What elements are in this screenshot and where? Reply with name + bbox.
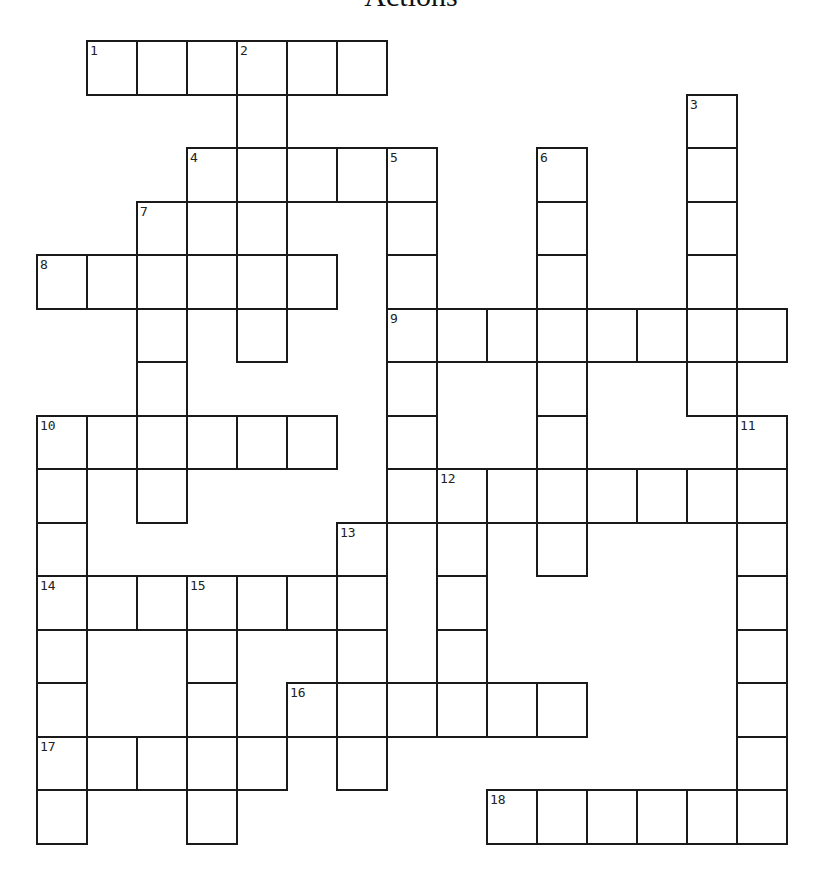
crossword-cell[interactable] bbox=[286, 147, 338, 203]
crossword-cell[interactable] bbox=[186, 682, 238, 738]
crossword-cell[interactable] bbox=[536, 522, 588, 577]
crossword-cell[interactable] bbox=[186, 736, 238, 791]
crossword-cell[interactable]: 5 bbox=[386, 147, 438, 203]
crossword-cell[interactable] bbox=[236, 415, 288, 470]
crossword-cell[interactable] bbox=[586, 789, 638, 845]
crossword-cell[interactable] bbox=[286, 40, 338, 96]
crossword-cell[interactable] bbox=[636, 468, 688, 524]
crossword-cell[interactable] bbox=[536, 682, 588, 738]
crossword-cell[interactable] bbox=[236, 575, 288, 631]
crossword-cell[interactable] bbox=[486, 308, 538, 363]
crossword-cell[interactable]: 8 bbox=[36, 254, 88, 310]
crossword-cell[interactable]: 1 bbox=[86, 40, 138, 96]
crossword-cell[interactable] bbox=[186, 415, 238, 470]
crossword-cell[interactable] bbox=[536, 201, 588, 256]
crossword-cell[interactable] bbox=[136, 254, 188, 310]
crossword-cell[interactable] bbox=[736, 308, 788, 363]
crossword-cell[interactable] bbox=[136, 308, 188, 363]
crossword-cell[interactable] bbox=[736, 789, 788, 845]
crossword-cell[interactable] bbox=[486, 682, 538, 738]
crossword-cell[interactable] bbox=[736, 736, 788, 791]
crossword-cell[interactable] bbox=[436, 308, 488, 363]
crossword-cell[interactable] bbox=[186, 40, 238, 96]
crossword-cell[interactable] bbox=[686, 308, 738, 363]
crossword-cell[interactable] bbox=[536, 415, 588, 470]
crossword-cell[interactable]: 9 bbox=[386, 308, 438, 363]
crossword-cell[interactable] bbox=[436, 522, 488, 577]
crossword-cell[interactable] bbox=[236, 254, 288, 310]
crossword-cell[interactable]: 18 bbox=[486, 789, 538, 845]
crossword-cell[interactable] bbox=[536, 308, 588, 363]
crossword-cell[interactable] bbox=[386, 361, 438, 417]
crossword-cell[interactable] bbox=[736, 682, 788, 738]
crossword-cell[interactable] bbox=[386, 201, 438, 256]
crossword-cell[interactable] bbox=[136, 361, 188, 417]
crossword-cell[interactable]: 4 bbox=[186, 147, 238, 203]
crossword-cell[interactable] bbox=[136, 468, 188, 524]
crossword-cell[interactable] bbox=[86, 415, 138, 470]
crossword-cell[interactable]: 7 bbox=[136, 201, 188, 256]
crossword-cell[interactable]: 15 bbox=[186, 575, 238, 631]
crossword-cell[interactable] bbox=[636, 789, 688, 845]
crossword-cell[interactable] bbox=[136, 415, 188, 470]
crossword-cell[interactable] bbox=[686, 201, 738, 256]
crossword-cell[interactable] bbox=[686, 468, 738, 524]
crossword-cell[interactable] bbox=[436, 629, 488, 684]
crossword-cell[interactable]: 3 bbox=[686, 94, 738, 149]
crossword-cell[interactable]: 11 bbox=[736, 415, 788, 470]
crossword-cell[interactable] bbox=[736, 629, 788, 684]
crossword-cell[interactable] bbox=[686, 361, 738, 417]
crossword-cell[interactable]: 13 bbox=[336, 522, 388, 577]
crossword-cell[interactable]: 10 bbox=[36, 415, 88, 470]
crossword-cell[interactable] bbox=[36, 468, 88, 524]
crossword-cell[interactable] bbox=[186, 629, 238, 684]
crossword-cell[interactable] bbox=[736, 522, 788, 577]
crossword-cell[interactable] bbox=[536, 468, 588, 524]
crossword-cell[interactable] bbox=[686, 254, 738, 310]
crossword-cell[interactable]: 6 bbox=[536, 147, 588, 203]
crossword-cell[interactable] bbox=[336, 682, 388, 738]
crossword-cell[interactable] bbox=[386, 415, 438, 470]
crossword-cell[interactable] bbox=[286, 575, 338, 631]
crossword-cell[interactable] bbox=[536, 789, 588, 845]
crossword-cell[interactable] bbox=[136, 575, 188, 631]
crossword-cell[interactable] bbox=[436, 575, 488, 631]
crossword-cell[interactable] bbox=[236, 308, 288, 363]
crossword-cell[interactable] bbox=[86, 575, 138, 631]
crossword-cell[interactable] bbox=[586, 308, 638, 363]
crossword-cell[interactable]: 14 bbox=[36, 575, 88, 631]
crossword-cell[interactable] bbox=[36, 629, 88, 684]
crossword-cell[interactable] bbox=[186, 789, 238, 845]
crossword-cell[interactable] bbox=[236, 736, 288, 791]
crossword-cell[interactable] bbox=[336, 40, 388, 96]
crossword-cell[interactable] bbox=[36, 789, 88, 845]
crossword-cell[interactable] bbox=[336, 147, 388, 203]
crossword-cell[interactable] bbox=[236, 94, 288, 149]
crossword-cell[interactable] bbox=[186, 254, 238, 310]
crossword-cell[interactable] bbox=[136, 40, 188, 96]
crossword-cell[interactable] bbox=[486, 468, 538, 524]
crossword-cell[interactable] bbox=[636, 308, 688, 363]
crossword-cell[interactable] bbox=[336, 629, 388, 684]
crossword-cell[interactable] bbox=[686, 789, 738, 845]
crossword-cell[interactable] bbox=[86, 736, 138, 791]
crossword-cell[interactable] bbox=[386, 468, 438, 524]
crossword-cell[interactable] bbox=[386, 682, 438, 738]
crossword-cell[interactable] bbox=[36, 522, 88, 577]
crossword-cell[interactable] bbox=[286, 254, 338, 310]
crossword-cell[interactable] bbox=[336, 575, 388, 631]
crossword-cell[interactable]: 16 bbox=[286, 682, 338, 738]
crossword-cell[interactable] bbox=[586, 468, 638, 524]
crossword-cell[interactable] bbox=[736, 575, 788, 631]
crossword-cell[interactable] bbox=[286, 415, 338, 470]
crossword-cell[interactable] bbox=[36, 682, 88, 738]
crossword-cell[interactable] bbox=[386, 254, 438, 310]
crossword-cell[interactable] bbox=[536, 254, 588, 310]
crossword-cell[interactable]: 17 bbox=[36, 736, 88, 791]
crossword-cell[interactable] bbox=[436, 682, 488, 738]
crossword-cell[interactable] bbox=[236, 147, 288, 203]
crossword-cell[interactable] bbox=[686, 147, 738, 203]
crossword-cell[interactable] bbox=[136, 736, 188, 791]
crossword-cell[interactable] bbox=[536, 361, 588, 417]
crossword-cell[interactable] bbox=[736, 468, 788, 524]
